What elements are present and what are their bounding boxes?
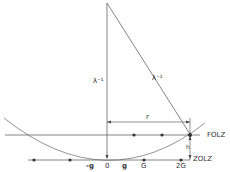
- r-label: r: [146, 114, 149, 121]
- ewald-sphere-arc: [4, 118, 205, 160]
- zolz-point: [32, 158, 35, 161]
- folz-label: FOLZ: [207, 132, 225, 139]
- folz-point: [132, 133, 135, 136]
- G-label: G: [141, 163, 146, 170]
- lambda-label-vertical: λ⁻¹: [93, 78, 104, 85]
- folz-point: [160, 133, 163, 136]
- folz-point: [188, 133, 192, 137]
- zolz-label: ZOLZ: [193, 156, 212, 163]
- lambda-label-sloped: λ⁻¹: [152, 75, 163, 82]
- zolz-point: [68, 158, 71, 161]
- ewald-diagram: [0, 0, 230, 172]
- 2G-label: 2G: [176, 163, 186, 170]
- h-label: h: [186, 144, 190, 150]
- origin-label: 0: [105, 163, 109, 170]
- g-label: g: [122, 163, 127, 170]
- neg-g-label: -g: [86, 163, 94, 170]
